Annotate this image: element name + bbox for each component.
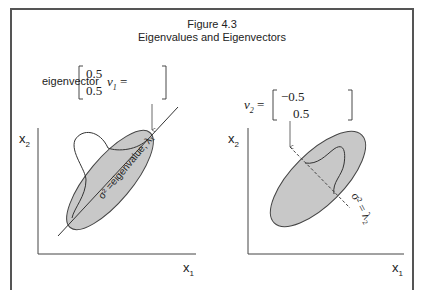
left-y-axis-label: x2 (19, 131, 30, 149)
right-bracket-close (348, 90, 352, 120)
left-x-axis-label: x1 (183, 260, 194, 278)
right-plot (248, 90, 404, 254)
right-vector-value-1: −0.5 (281, 89, 305, 105)
right-x-axis-label: x1 (392, 260, 403, 278)
right-y-axis-label: x2 (228, 131, 239, 149)
left-plot (38, 66, 196, 254)
right-vector-value-2: 0.5 (293, 106, 309, 122)
left-bracket-close (162, 66, 166, 99)
left-vector-name: v1 = (107, 74, 127, 92)
right-bracket-open (273, 90, 277, 120)
left-vector-value-2: 0.5 (86, 83, 102, 99)
left-vector-value-1: 0.5 (86, 66, 102, 82)
right-vector-name: v2 = (244, 97, 264, 115)
